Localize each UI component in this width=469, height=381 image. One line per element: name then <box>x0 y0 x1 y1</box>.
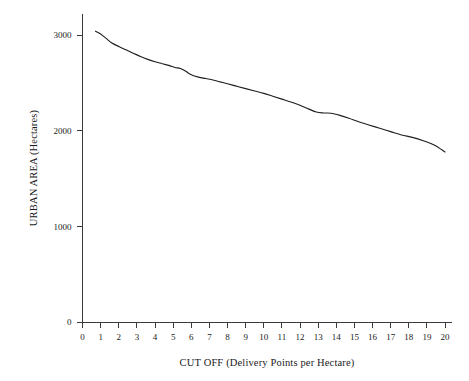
x-tick-label: 16 <box>368 332 378 342</box>
x-tick-label: 17 <box>386 332 396 342</box>
x-axis-title: CUT OFF (Delivery Points per Hectare) <box>180 357 355 369</box>
x-tick-label: 12 <box>296 332 305 342</box>
data-series-line <box>96 31 445 152</box>
x-tick-label: 5 <box>171 332 176 342</box>
y-axis-title: URBAN AREA (Hectares) <box>28 109 40 226</box>
chart-figure: 0100020003000 01234567891011121314151617… <box>0 0 469 381</box>
line-chart-canvas: 0100020003000 01234567891011121314151617… <box>0 0 469 381</box>
y-tick-label: 3000 <box>54 30 73 40</box>
x-tick-label: 0 <box>80 332 85 342</box>
x-tick-label: 3 <box>135 332 140 342</box>
x-axis-ticks: 01234567891011121314151617181920 <box>80 322 450 342</box>
y-tick-label: 0 <box>67 317 72 327</box>
x-tick-label: 15 <box>350 332 360 342</box>
x-tick-label: 10 <box>259 332 269 342</box>
x-tick-label: 18 <box>404 332 414 342</box>
y-axis-ticks: 0100020003000 <box>54 30 83 327</box>
x-tick-label: 2 <box>117 332 122 342</box>
x-tick-label: 7 <box>207 332 212 342</box>
x-tick-label: 14 <box>332 332 342 342</box>
x-tick-label: 6 <box>189 332 194 342</box>
x-tick-label: 13 <box>314 332 324 342</box>
x-tick-label: 19 <box>422 332 432 342</box>
y-tick-label: 1000 <box>54 222 73 232</box>
x-tick-label: 9 <box>243 332 248 342</box>
y-tick-label: 2000 <box>54 126 73 136</box>
x-tick-label: 4 <box>153 332 158 342</box>
x-tick-label: 8 <box>225 332 230 342</box>
x-tick-label: 20 <box>441 332 451 342</box>
x-tick-label: 11 <box>278 332 287 342</box>
x-tick-label: 1 <box>98 332 103 342</box>
